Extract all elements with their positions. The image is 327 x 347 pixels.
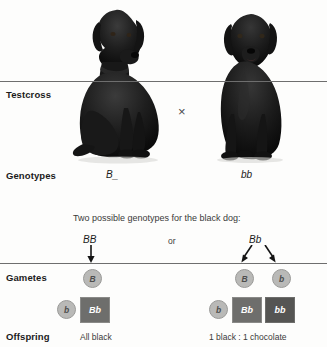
parent-genotype-black: B_ — [106, 169, 118, 180]
offspring-right-branch-bb: bb — [265, 297, 295, 323]
conjunction-or: or — [168, 236, 176, 246]
branch-left-genotype: BB — [83, 234, 96, 245]
divider-testcross — [0, 81, 327, 82]
parent-dog-chocolate-photo — [212, 10, 290, 164]
row-label-gametes: Gametes — [6, 272, 47, 283]
gamete-right-branch-B: B — [235, 269, 254, 288]
parent-dog-black-photo — [72, 4, 168, 164]
gamete-right-branch-b: b — [272, 269, 291, 288]
row-label-offspring: Offspring — [6, 331, 50, 342]
branch-right-genotype: Bb — [249, 234, 261, 245]
divider-gametes — [0, 263, 327, 264]
offspring-right-branch-Bb: Bb — [232, 297, 262, 323]
cross-symbol: × — [178, 105, 186, 118]
offspring-left-branch-Bb: Bb — [80, 297, 110, 323]
arrow-down-left-branch — [86, 245, 96, 264]
testcross-figure: × Testcross Genotypes B_ bb Two possible… — [0, 0, 327, 347]
tester-gamete-right-branch: b — [209, 300, 228, 319]
note-two-genotypes: Two possible genotypes for the black dog… — [73, 213, 241, 223]
tester-gamete-left-branch: b — [57, 300, 76, 319]
offspring-result-right-branch: 1 black : 1 chocolate — [209, 332, 287, 342]
arrow-down-right-of-right-branch — [263, 245, 279, 264]
row-label-testcross: Testcross — [6, 89, 51, 100]
offspring-result-left-branch: All black — [80, 332, 112, 342]
parent-genotype-chocolate: bb — [241, 169, 252, 180]
gamete-left-branch-B: B — [83, 269, 102, 288]
row-label-genotypes: Genotypes — [6, 170, 56, 181]
arrow-down-left-of-right-branch — [238, 245, 254, 264]
